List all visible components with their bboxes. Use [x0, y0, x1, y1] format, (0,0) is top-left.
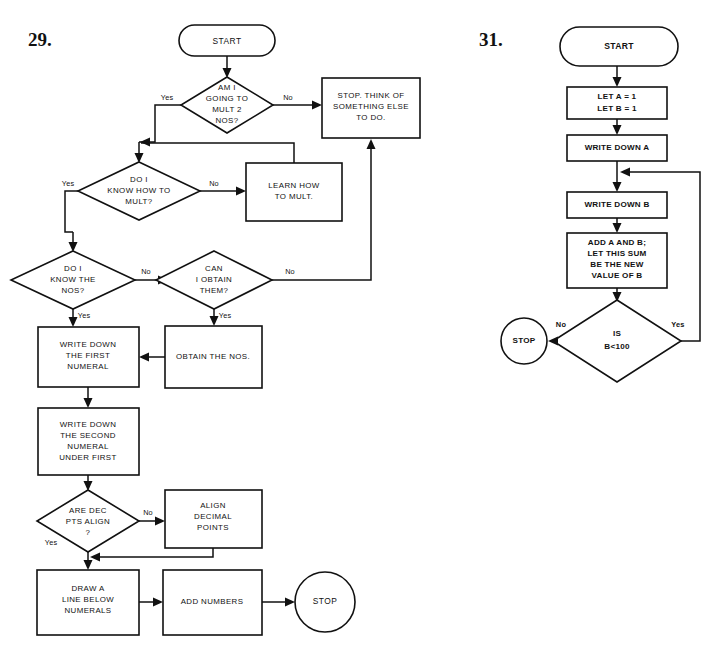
- figure-29: 29. START AM I GOING TO MULT 2 NOS? No: [11, 25, 420, 635]
- node-29-decision-know-how-line1: DO I: [130, 175, 148, 184]
- node-29-align-points-line3: POINTS: [197, 523, 229, 532]
- node-31-let-init-line2: LET B = 1: [597, 104, 637, 113]
- node-29-decision-dec-align-line3: ?: [86, 528, 91, 537]
- node-31-let-init-line1: LET A = 1: [598, 92, 637, 101]
- node-29-obtain-nos-label: OBTAIN THE NOS.: [176, 352, 250, 361]
- node-29-stop-think: STOP. THINK OF SOMETHING ELSE TO DO.: [322, 78, 420, 138]
- node-31-add-ab-line3: BE THE NEW: [590, 260, 643, 269]
- node-29-draw-line-line2: LINE BELOW: [62, 595, 114, 604]
- node-29-stop-think-line2: SOMETHING ELSE: [333, 102, 409, 111]
- node-29-learn-how: LEARN HOW TO MULT.: [246, 163, 342, 221]
- edge-29-know-how-yes-label: Yes: [62, 179, 75, 188]
- node-29-decision-mult2-line2: GOING TO: [206, 94, 248, 103]
- node-29-stop-think-line3: TO DO.: [356, 113, 385, 122]
- node-29-decision-know-how-line3: MULT?: [125, 197, 152, 206]
- node-29-write-second-line2: THE SECOND: [60, 431, 116, 440]
- node-29-write-first-line2: THE FIRST: [66, 351, 110, 360]
- node-29-draw-line-line1: DRAW A: [71, 584, 105, 593]
- node-31-start: START: [560, 27, 678, 66]
- edge-29-dec-align-no-label: No: [143, 508, 153, 517]
- edge-29-dec-align-yes-label: Yes: [45, 538, 58, 547]
- node-31-stop-label: STOP: [513, 336, 536, 345]
- node-29-add-numbers: ADD NUMBERS: [163, 570, 262, 635]
- node-31-add-ab-line2: LET THIS SUM: [587, 249, 646, 258]
- node-29-write-first-line1: WRITE DOWN: [60, 340, 117, 349]
- node-29-decision-know-how: DO I KNOW HOW TO MULT?: [78, 162, 200, 220]
- node-31-decision-is-b-line1: IS: [613, 329, 621, 338]
- node-29-stop-think-line1: STOP. THINK OF: [338, 91, 405, 100]
- node-31-write-b-label: WRITE DOWN B: [584, 200, 649, 209]
- node-29-decision-know-how-line2: KNOW HOW TO: [107, 186, 170, 195]
- node-29-write-second-line3: NUMERAL: [67, 442, 109, 451]
- node-31-add-ab: ADD A AND B; LET THIS SUM BE THE NEW VAL…: [567, 233, 667, 288]
- node-29-stop-label: STOP: [313, 596, 337, 606]
- node-29-decision-can-obtain-line3: THEM?: [200, 286, 229, 295]
- node-29-learn-how-line2: TO MULT.: [275, 192, 313, 201]
- node-29-decision-know-nos: DO I KNOW THE NOS?: [11, 251, 135, 309]
- flowchart-canvas: 29. START AM I GOING TO MULT 2 NOS? No: [0, 0, 726, 660]
- node-31-write-b: WRITE DOWN B: [567, 192, 667, 218]
- node-29-align-points-line1: ALIGN: [200, 501, 226, 510]
- node-29-learn-how-line1: LEARN HOW: [268, 181, 320, 190]
- node-29-decision-can-obtain-line1: CAN: [205, 264, 223, 273]
- node-31-add-ab-line1: ADD A AND B;: [588, 238, 646, 247]
- node-29-write-second: WRITE DOWN THE SECOND NUMERAL UNDER FIRS…: [38, 408, 139, 475]
- node-31-decision-is-b-line2: B<100: [604, 342, 630, 351]
- node-31-decision-is-b: IS B<100: [553, 300, 681, 382]
- node-31-write-a: WRITE DOWN A: [567, 135, 667, 161]
- edge-29-can-obtain-no-label: No: [285, 267, 295, 276]
- edge-29-know-nos-yes-label: Yes: [78, 311, 91, 320]
- edge-29-mult2-yes-label: Yes: [161, 93, 174, 102]
- node-29-write-second-line4: UNDER FIRST: [59, 453, 116, 462]
- node-31-stop: STOP: [501, 318, 547, 364]
- node-29-decision-know-nos-line3: NOS?: [61, 286, 84, 295]
- node-29-decision-can-obtain-line2: I OBTAIN: [196, 275, 232, 284]
- node-29-decision-mult2: AM I GOING TO MULT 2 NOS?: [181, 77, 273, 133]
- flowchart-page: 29. START AM I GOING TO MULT 2 NOS? No: [0, 0, 726, 660]
- node-29-write-first-line3: NUMERAL: [67, 362, 109, 371]
- node-29-align-points-line2: DECIMAL: [194, 512, 232, 521]
- edge-29-can-obtain-yes-label: Yes: [219, 311, 232, 320]
- node-29-add-numbers-label: ADD NUMBERS: [181, 597, 244, 606]
- node-31-write-a-label: WRITE DOWN A: [585, 143, 650, 152]
- node-29-decision-know-nos-line1: DO I: [64, 264, 82, 273]
- node-31-add-ab-line4: VALUE OF B: [592, 271, 643, 280]
- node-29-decision-dec-align-line1: ARE DEC: [69, 506, 107, 515]
- node-29-draw-line-line3: NUMERALS: [64, 606, 111, 615]
- node-29-decision-mult2-line3: MULT 2: [212, 105, 242, 114]
- node-29-write-second-line1: WRITE DOWN: [60, 420, 117, 429]
- node-31-start-label: START: [604, 41, 634, 51]
- node-29-start: START: [179, 25, 275, 56]
- edge-29-know-how-no-label: No: [209, 179, 219, 188]
- node-29-decision-dec-align-line2: PTS ALIGN: [66, 517, 110, 526]
- node-29-stop: STOP: [295, 572, 355, 632]
- figure-31: 31. START LET A = 1 LET B = 1 WRITE DOWN…: [479, 27, 700, 382]
- edge-31-is-b-no-label: No: [556, 320, 567, 329]
- figure-29-number: 29.: [28, 29, 52, 50]
- node-29-decision-know-nos-line2: KNOW THE: [50, 275, 96, 284]
- edge-29-mult2-no-label: No: [283, 93, 293, 102]
- node-29-decision-mult2-line1: AM I: [218, 83, 236, 92]
- node-29-start-label: START: [213, 36, 242, 46]
- edge-29-know-nos-no-label: No: [141, 267, 151, 276]
- node-29-write-first: WRITE DOWN THE FIRST NUMERAL: [38, 327, 139, 387]
- figure-31-number: 31.: [479, 29, 503, 50]
- node-29-align-points: ALIGN DECIMAL POINTS: [165, 490, 262, 548]
- node-29-draw-line: DRAW A LINE BELOW NUMERALS: [37, 570, 139, 635]
- node-29-decision-mult2-line4: NOS?: [215, 116, 238, 125]
- node-29-obtain-nos: OBTAIN THE NOS.: [165, 326, 262, 388]
- node-29-decision-can-obtain: CAN I OBTAIN THEM?: [156, 251, 272, 309]
- node-31-let-init: LET A = 1 LET B = 1: [567, 87, 667, 119]
- edge-31-is-b-yes-label: Yes: [671, 320, 684, 329]
